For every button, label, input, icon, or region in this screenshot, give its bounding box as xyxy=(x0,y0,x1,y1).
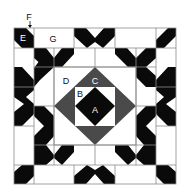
label-e: E xyxy=(20,33,26,43)
quilt-diagram: A B C D E F G xyxy=(0,0,182,194)
label-f: F xyxy=(26,12,32,22)
label-d: D xyxy=(63,76,70,86)
label-c: C xyxy=(92,76,99,86)
label-g: G xyxy=(49,34,56,44)
label-b: B xyxy=(77,89,83,99)
label-a: A xyxy=(92,105,98,115)
